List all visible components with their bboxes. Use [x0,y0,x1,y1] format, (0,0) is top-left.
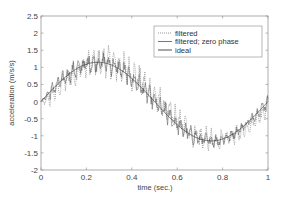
legend-label-ideal: ideal [175,46,191,55]
x-tick-label: 1 [266,173,271,182]
y-tick-label: 2.5 [27,12,39,21]
x-tick-label: 0.8 [217,173,229,182]
y-tick-label: 1.5 [27,46,39,55]
y-tick-label: -0.5 [24,115,38,124]
y-tick-label: -2 [31,166,39,175]
x-tick-label: 0 [39,173,44,182]
y-tick-label: -1 [31,132,39,141]
y-axis-label: acceleration (m/s/s) [7,60,16,126]
legend: filtered filtered; zero phase ideal [154,26,262,57]
y-tick-label: 2 [34,29,39,38]
y-tick-label: 1 [34,63,39,72]
y-tick-label: -1.5 [24,149,38,158]
y-tick-label: 0 [34,98,39,107]
x-axis-label: time (sec.) [137,183,173,192]
y-tick-label: 0.5 [27,80,39,89]
chart: 00.20.40.60.81-2-1.5-1-0.500.511.522.5 t… [0,0,284,198]
x-tick-label: 0.6 [172,173,184,182]
x-tick-label: 0.4 [126,173,138,182]
x-tick-label: 0.2 [81,173,93,182]
